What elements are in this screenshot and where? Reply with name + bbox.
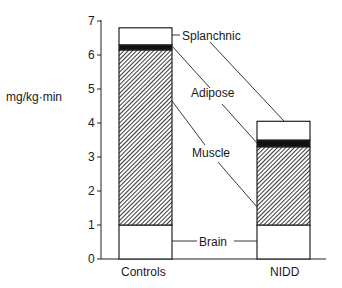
segment-adipose — [257, 140, 310, 147]
label-splanchnic: Splanchnic — [182, 29, 241, 43]
y-axis-label: mg/kg·min — [6, 90, 62, 104]
stacked-bar-chart: mg/kg·min 01234567 Splanchnic Adipose Mu… — [0, 0, 342, 288]
bar-nidd — [257, 121, 310, 259]
y-tick-label: 1 — [88, 218, 95, 232]
segment-splanchnic — [257, 121, 310, 140]
bars — [119, 28, 310, 259]
category-label-controls: Controls — [121, 265, 166, 279]
segment-brain — [119, 225, 172, 259]
y-tick-label: 5 — [88, 82, 95, 96]
label-brain: Brain — [199, 235, 227, 249]
segment-brain — [257, 225, 310, 259]
label-adipose: Adipose — [191, 86, 235, 100]
y-tick-label: 3 — [88, 150, 95, 164]
bar-controls — [119, 28, 172, 259]
y-tick-label: 2 — [88, 184, 95, 198]
y-tick-label: 6 — [88, 48, 95, 62]
label-muscle: Muscle — [192, 146, 230, 160]
segment-muscle — [119, 50, 172, 225]
y-tick-label: 7 — [88, 14, 95, 28]
y-tick-label: 4 — [88, 116, 95, 130]
segment-adipose — [119, 45, 172, 50]
segment-splanchnic — [119, 28, 172, 45]
segment-muscle — [257, 147, 310, 225]
y-tick-label: 0 — [88, 252, 95, 266]
y-axis: 01234567 — [88, 14, 101, 266]
category-label-nidd: NIDD — [270, 265, 300, 279]
